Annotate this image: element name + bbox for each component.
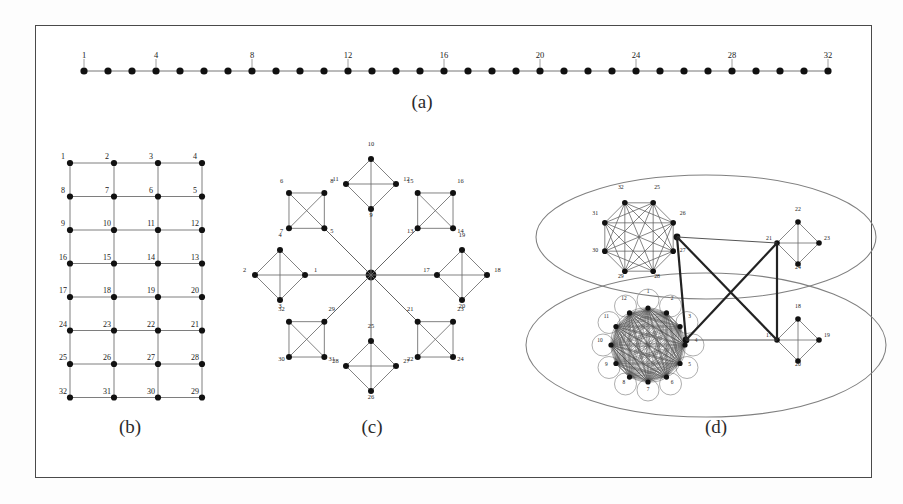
panel-c-node-2[interactable] (252, 272, 258, 278)
panel-b-node-9[interactable] (67, 227, 73, 233)
panel-a-node-14[interactable] (392, 67, 399, 74)
panel-d-top-clique-node-30[interactable] (602, 248, 608, 254)
panel-c-node-4[interactable] (277, 247, 283, 253)
panel-a-node-23[interactable] (608, 67, 615, 74)
panel-d-bottom-clique-node-1[interactable] (645, 305, 650, 310)
panel-d-top-clique-node-27[interactable] (670, 248, 676, 254)
panel-b-node-22[interactable] (155, 327, 161, 333)
panel-d-bottom-clique-node-7[interactable] (645, 379, 650, 384)
panel-b-node-8[interactable] (67, 193, 73, 199)
panel-a-node-11[interactable] (320, 67, 327, 74)
panel-a-node-25[interactable] (656, 67, 663, 74)
panel-b-node-26[interactable] (111, 361, 117, 367)
panel-c-node-5[interactable] (321, 225, 327, 231)
panel-a-node-2[interactable] (104, 67, 111, 74)
panel-c-node-13[interactable] (415, 225, 421, 231)
panel-c-node-1[interactable] (302, 272, 308, 278)
panel-c-node-29[interactable] (321, 319, 327, 325)
panel-d-bottom-diamond-node-18[interactable] (795, 316, 801, 322)
panel-b-node-24[interactable] (67, 327, 73, 333)
panel-a-node-9[interactable] (272, 67, 279, 74)
panel-b-node-10[interactable] (111, 227, 117, 233)
panel-c-node-14[interactable] (450, 225, 456, 231)
panel-a-node-22[interactable] (584, 67, 591, 74)
panel-a-node-5[interactable] (176, 67, 183, 74)
panel-c-node-7[interactable] (286, 225, 292, 231)
panel-a-node-12[interactable] (344, 67, 351, 74)
panel-a-node-18[interactable] (488, 67, 495, 74)
panel-d-bottom-clique-node-6[interactable] (664, 374, 669, 379)
panel-d-top-clique-node-32[interactable] (622, 200, 628, 206)
panel-d-top-clique-node-26[interactable] (670, 220, 676, 226)
panel-c-node-31[interactable] (321, 354, 327, 360)
panel-c-node-8[interactable] (321, 190, 327, 196)
panel-b-node-28[interactable] (199, 361, 205, 367)
panel-b-node-15[interactable] (111, 260, 117, 266)
panel-b-node-2[interactable] (111, 160, 117, 166)
panel-a-node-10[interactable] (296, 67, 303, 74)
panel-b-node-23[interactable] (111, 327, 117, 333)
panel-b-node-30[interactable] (155, 394, 161, 400)
panel-a-node-21[interactable] (560, 67, 567, 74)
panel-b-node-4[interactable] (199, 160, 205, 166)
panel-c-node-11[interactable] (343, 181, 349, 187)
panel-d-bottom-clique-node-11[interactable] (613, 324, 618, 329)
panel-a-node-27[interactable] (704, 67, 711, 74)
panel-c-node-22[interactable] (415, 354, 421, 360)
panel-d-top-clique-node-31[interactable] (602, 220, 608, 226)
panel-b-node-12[interactable] (199, 227, 205, 233)
panel-c-node-12[interactable] (393, 181, 399, 187)
panel-c-node-24[interactable] (450, 354, 456, 360)
panel-d-bottom-diamond-node-19[interactable] (816, 337, 822, 343)
panel-a-node-7[interactable] (224, 67, 231, 74)
panel-b-node-29[interactable] (199, 394, 205, 400)
panel-c-node-32[interactable] (286, 319, 292, 325)
panel-d-bottom-clique-node-12[interactable] (627, 310, 632, 315)
panel-d-top-clique-node-25[interactable] (650, 200, 656, 206)
panel-b-node-17[interactable] (67, 294, 73, 300)
panel-a-node-4[interactable] (152, 67, 159, 74)
panel-b-node-3[interactable] (155, 160, 161, 166)
panel-c-node-17[interactable] (434, 272, 440, 278)
panel-b-node-16[interactable] (67, 260, 73, 266)
panel-c-node-19[interactable] (459, 247, 465, 253)
panel-a-node-17[interactable] (464, 67, 471, 74)
panel-d-top-diamond-node-22[interactable] (795, 219, 801, 225)
panel-a-node-32[interactable] (824, 67, 831, 74)
panel-d-top-diamond-node-23[interactable] (816, 240, 822, 246)
panel-a-node-8[interactable] (248, 67, 255, 74)
panel-a-node-6[interactable] (200, 67, 207, 74)
panel-a-node-19[interactable] (512, 67, 519, 74)
panel-a-node-26[interactable] (680, 67, 687, 74)
panel-b-node-21[interactable] (199, 327, 205, 333)
panel-d-bottom-clique-node-8[interactable] (627, 374, 632, 379)
panel-a-node-16[interactable] (440, 67, 447, 74)
panel-a-node-1[interactable] (80, 67, 87, 74)
panel-a-node-31[interactable] (800, 67, 807, 74)
panel-c-node-25[interactable] (368, 338, 374, 344)
panel-c-node-27[interactable] (393, 363, 399, 369)
panel-b-node-25[interactable] (67, 361, 73, 367)
panel-b-node-32[interactable] (67, 394, 73, 400)
panel-c-node-28[interactable] (343, 363, 349, 369)
panel-c-node-30[interactable] (286, 354, 292, 360)
panel-a-node-3[interactable] (128, 67, 135, 74)
panel-a-node-30[interactable] (776, 67, 783, 74)
panel-b-node-5[interactable] (199, 193, 205, 199)
panel-a-node-29[interactable] (752, 67, 759, 74)
panel-b-node-31[interactable] (111, 394, 117, 400)
panel-a-node-24[interactable] (632, 67, 639, 74)
panel-a-node-28[interactable] (728, 67, 735, 74)
panel-b-node-1[interactable] (67, 160, 73, 166)
panel-b-node-18[interactable] (111, 294, 117, 300)
panel-d-bottom-clique-node-3[interactable] (677, 324, 682, 329)
panel-c-node-18[interactable] (484, 272, 490, 278)
panel-b-node-13[interactable] (199, 260, 205, 266)
panel-d-bottom-clique-node-5[interactable] (677, 361, 682, 366)
panel-d-bottom-clique-node-2[interactable] (664, 310, 669, 315)
panel-b-node-14[interactable] (155, 260, 161, 266)
panel-a-node-20[interactable] (536, 67, 543, 74)
panel-b-node-27[interactable] (155, 361, 161, 367)
panel-c-node-6[interactable] (286, 190, 292, 196)
panel-b-node-7[interactable] (111, 193, 117, 199)
